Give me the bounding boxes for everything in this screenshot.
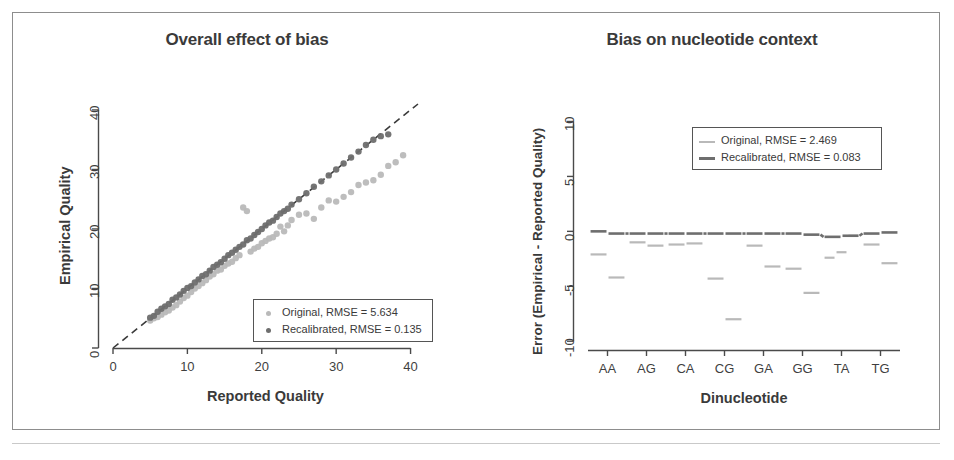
left-x-tick: 40 [402, 359, 420, 374]
right-y-tick: -5 [562, 285, 577, 297]
right-x-tick: TA [826, 361, 858, 376]
recalibrated-marker-icon [260, 322, 276, 336]
right-x-axis-title: Dinucleotide [674, 390, 814, 406]
right-y-tick: 10 [562, 117, 577, 131]
left-x-axis-title: Reported Quality [196, 388, 336, 404]
right-x-tick: AA [592, 361, 624, 376]
original-line-icon [699, 133, 715, 147]
panel-bias-on-nucleotide-context: Bias on nucleotide context -10-50510 AAA… [484, 12, 940, 430]
right-y-tick: -10 [562, 338, 577, 357]
figure-bottom-rule [12, 443, 940, 444]
left-x-tick: 0 [104, 359, 122, 374]
right-y-tick: 5 [562, 179, 577, 186]
left-x-tick: 10 [178, 359, 196, 374]
right-legend: Original, RMSE = 2.469 Recalibrated, RMS… [692, 127, 882, 170]
right-legend-row-recalibrated: Recalibrated, RMSE = 0.083 [699, 150, 873, 164]
right-x-tick: GG [787, 361, 819, 376]
left-x-tick: 30 [327, 359, 345, 374]
original-marker-icon [260, 305, 276, 319]
right-x-tick: CG [709, 361, 741, 376]
left-y-axis-title: Empirical Quality [57, 167, 73, 285]
left-legend-label-recalibrated: Recalibrated, RMSE = 0.135 [282, 322, 422, 336]
right-legend-row-original: Original, RMSE = 2.469 [699, 133, 873, 147]
right-x-tick: AG [631, 361, 663, 376]
left-y-tick: 20 [87, 225, 102, 239]
left-legend-row-recalibrated: Recalibrated, RMSE = 0.135 [260, 322, 424, 336]
right-y-tick: 0 [562, 234, 577, 241]
right-y-axis-title: Error (Empirical - Reported Quality) [530, 128, 545, 355]
right-legend-label-original: Original, RMSE = 2.469 [721, 133, 837, 147]
left-x-tick: 20 [253, 359, 271, 374]
right-legend-label-recalibrated: Recalibrated, RMSE = 0.083 [721, 150, 861, 164]
right-x-tick: CA [670, 361, 702, 376]
panel-overall-effect-of-bias: Overall effect of bias 010203040 0102030… [12, 12, 482, 430]
left-y-tick: 0 [87, 351, 102, 358]
left-legend-label-original: Original, RMSE = 5.634 [282, 305, 398, 319]
right-x-tick: GA [748, 361, 780, 376]
left-legend-row-original: Original, RMSE = 5.634 [260, 305, 424, 319]
left-y-tick: 30 [87, 165, 102, 179]
left-y-tick: 40 [87, 105, 102, 119]
left-legend: Original, RMSE = 5.634 Recalibrated, RMS… [253, 299, 433, 342]
left-y-tick: 10 [87, 284, 102, 298]
recalibrated-line-icon [699, 150, 715, 164]
right-x-tick: TG [865, 361, 897, 376]
figure-root: Overall effect of bias 010203040 0102030… [0, 0, 954, 460]
